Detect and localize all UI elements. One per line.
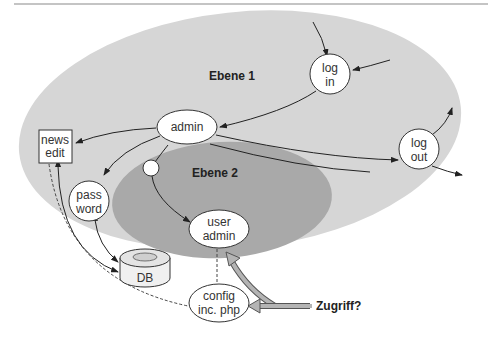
node-db-label: DB <box>137 271 154 285</box>
zone-label-ebene-1: Ebene 1 <box>209 69 255 83</box>
node-admin-label: admin <box>171 120 204 134</box>
node-db[interactable]: DB <box>120 249 170 287</box>
node-news-edit[interactable]: news edit <box>39 130 72 163</box>
node-password-line2: word <box>75 202 102 216</box>
node-password-line1: pass <box>76 188 101 202</box>
gate-node[interactable] <box>143 160 159 176</box>
node-user-admin-line1: user <box>207 215 230 229</box>
node-login[interactable]: log in <box>310 54 350 94</box>
node-news-edit-line1: news <box>41 133 69 147</box>
node-config[interactable]: config inc. php <box>189 284 249 322</box>
node-user-admin-line2: admin <box>203 229 236 243</box>
zone-label-ebene-2: Ebene 2 <box>192 166 238 180</box>
node-password[interactable]: pass word <box>69 181 109 221</box>
security-levels-diagram: Ebene 1 Ebene 2 Zugriff? log in <box>0 0 488 339</box>
node-login-line2: in <box>325 75 334 89</box>
access-question-label: Zugriff? <box>316 299 361 313</box>
node-admin[interactable]: admin <box>157 110 217 144</box>
node-logout-line2: out <box>411 150 428 164</box>
edge-logout-right <box>432 166 462 175</box>
node-login-line1: log <box>322 61 338 75</box>
node-config-line2: inc. php <box>198 303 240 317</box>
node-logout[interactable]: log out <box>399 129 439 169</box>
node-config-line1: config <box>203 289 235 303</box>
node-news-edit-line2: edit <box>45 146 65 160</box>
node-logout-line1: log <box>411 136 427 150</box>
node-user-admin[interactable]: user admin <box>189 210 249 248</box>
